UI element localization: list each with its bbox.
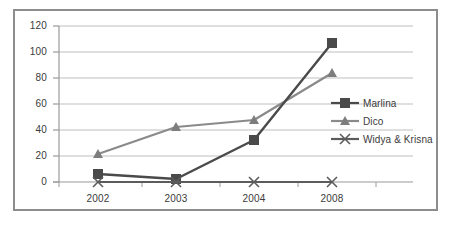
y-tick-label-80: 80 <box>17 73 47 83</box>
axis-lines <box>53 26 413 187</box>
legend-marker-marlina-icon <box>331 98 359 108</box>
chart-canvas: 120 100 80 60 40 20 0 2002 2003 2004 200… <box>15 11 436 209</box>
gridlines <box>59 26 413 156</box>
series-marlina-marker-2004 <box>249 135 259 145</box>
line-chart-svg <box>15 11 440 213</box>
series-dico-marker-2008 <box>327 68 337 77</box>
legend-label-marlina: Marlina <box>363 99 397 109</box>
legend-marker-dico-icon <box>331 116 359 125</box>
y-tick-label-120: 120 <box>17 21 47 31</box>
chart-frame: 120 100 80 60 40 20 0 2002 2003 2004 200… <box>13 9 438 211</box>
figure-root: 120 100 80 60 40 20 0 2002 2003 2004 200… <box>0 0 459 227</box>
y-tick-label-20: 20 <box>17 151 47 161</box>
legend-marker-widya-krisna-icon <box>331 134 359 144</box>
legend-swatches <box>331 98 359 144</box>
y-tick-label-60: 60 <box>17 99 47 109</box>
series-marlina <box>93 38 337 184</box>
legend-label-dico: Dico <box>363 117 383 127</box>
series-widya-krisna <box>93 177 337 187</box>
y-tick-label-100: 100 <box>17 47 47 57</box>
x-tick-label-2003: 2003 <box>154 194 198 204</box>
y-tick-label-40: 40 <box>17 125 47 135</box>
x-tick-label-2002: 2002 <box>76 194 120 204</box>
legend-label-widya-krisna: Widya & Krisna <box>363 135 433 145</box>
x-tick-label-2004: 2004 <box>232 194 276 204</box>
y-tick-label-0: 0 <box>17 177 47 187</box>
x-tick-label-2008: 2008 <box>310 194 354 204</box>
series-marlina-line <box>98 43 332 179</box>
series-marlina-marker-2008 <box>327 38 337 48</box>
